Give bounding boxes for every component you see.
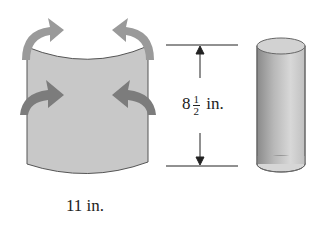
width-label: 11 in.	[66, 196, 104, 216]
paper-sheet	[27, 46, 148, 174]
diagram-canvas	[0, 0, 328, 231]
height-fraction: 12	[193, 94, 201, 117]
arrow-up-icon	[196, 46, 204, 54]
arrow-down-icon	[196, 157, 204, 165]
height-whole: 8	[182, 94, 191, 113]
fraction-denominator: 2	[194, 106, 200, 117]
height-unit: in.	[206, 94, 223, 113]
height-label: 812 in.	[182, 94, 224, 117]
cylinder	[257, 38, 305, 172]
